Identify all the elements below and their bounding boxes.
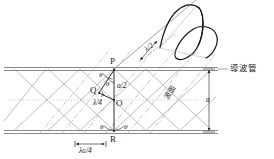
point-label-o: O [116,99,123,108]
standing-wave-curve [160,5,217,60]
angle-label-theta-r-left: θ [100,124,103,131]
dimension-label-guide-height: a [206,96,210,104]
diagram-canvas [0,0,274,159]
angle-label-theta-p-inner: θ [106,81,109,88]
point-label-r: R [110,135,116,144]
waveguide-top-wall [4,68,218,71]
point-label-q: Q [90,86,97,95]
dimension-label-quarter-wavelength: λ/4 [93,99,102,107]
angle-label-theta-p-left: θ [99,72,102,79]
wavefront-lines [40,48,214,133]
point-label-p: P [110,57,115,66]
dimension-label-guide-quarter: λɢ/4 [79,147,92,155]
dimension-label-half-height: a/2 [117,82,127,90]
standing-wave-guides [160,6,206,58]
annotation-waveguide: 導波管 [230,64,257,73]
angle-label-theta-r-right: θ [124,124,127,131]
waveguide-diagram-figure: P Q O R θ θ θ θ a/2 λ/4 λ/2 λɢ/4 a 導波管 波… [0,0,274,159]
